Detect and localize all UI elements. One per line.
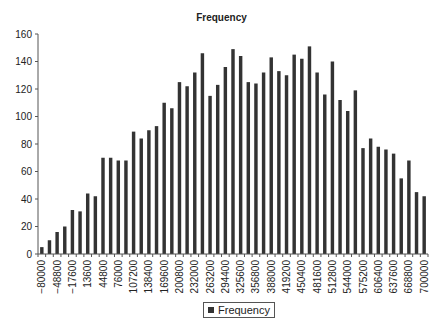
x-tick-label: 388000: [266, 260, 277, 294]
legend-swatch-icon: [208, 307, 214, 313]
bar: [354, 90, 357, 254]
legend: Frequency: [203, 302, 275, 318]
bar: [185, 86, 188, 254]
x-tick-label: 450400: [296, 260, 307, 294]
y-tick-label: 120: [15, 84, 32, 95]
bar: [40, 247, 43, 254]
bar: [94, 196, 97, 254]
bar: [346, 111, 349, 254]
bar: [384, 150, 387, 255]
x-tick-label: 76000: [113, 260, 124, 288]
x-tick-label: −48800: [52, 260, 63, 294]
bar: [239, 56, 242, 254]
bar: [247, 82, 250, 254]
bar: [292, 55, 295, 254]
y-tick-label: 80: [21, 139, 33, 150]
bar: [124, 161, 127, 255]
bar: [155, 126, 158, 254]
y-tick-label: 160: [15, 29, 32, 40]
bar: [422, 196, 425, 254]
bar: [377, 147, 380, 254]
bar: [55, 232, 58, 254]
bar: [231, 49, 234, 254]
bar: [308, 46, 311, 254]
bar: [361, 148, 364, 254]
bar: [71, 210, 74, 254]
x-tick-label: 356800: [250, 260, 261, 294]
x-tick-label: 606400: [373, 260, 384, 294]
x-tick-label: 325600: [235, 260, 246, 294]
bar: [193, 73, 196, 255]
y-tick-label: 20: [21, 221, 33, 232]
legend-label: Frequency: [218, 304, 270, 316]
x-tick-label: 637600: [388, 260, 399, 294]
bar: [117, 161, 120, 255]
x-tick-label: 169600: [159, 260, 170, 294]
y-tick-label: 140: [15, 56, 32, 67]
x-tick-label: 200800: [174, 260, 185, 294]
bar: [170, 108, 173, 254]
bar: [392, 154, 395, 254]
bar: [101, 158, 104, 254]
bar: [224, 67, 227, 254]
bar: [201, 53, 204, 254]
bar: [331, 62, 334, 255]
bar: [86, 194, 89, 255]
x-tick-label: 294400: [220, 260, 231, 294]
x-tick-label: −80000: [36, 260, 47, 294]
x-tick-label: 44800: [98, 260, 109, 288]
bar: [338, 100, 341, 254]
bar: [277, 71, 280, 254]
y-tick-label: 100: [15, 111, 32, 122]
bars: [40, 46, 426, 254]
bar: [162, 103, 165, 254]
bar: [109, 158, 112, 254]
bar-chart: 020406080100120140160 −80000−48800−17600…: [0, 0, 443, 334]
bar: [315, 73, 318, 255]
y-tick-label: 40: [21, 194, 33, 205]
x-tick-label: 512800: [327, 260, 338, 294]
bar: [262, 73, 265, 255]
bar: [48, 240, 51, 254]
x-tick-label: 700000: [419, 260, 430, 294]
x-tick-label: 138400: [143, 260, 154, 294]
bar: [147, 130, 150, 254]
bar: [208, 96, 211, 254]
bar: [78, 211, 81, 254]
x-tick-label: 575200: [358, 260, 369, 294]
bar: [300, 59, 303, 254]
x-axis: −80000−48800−176001360044800760001072001…: [36, 254, 429, 294]
x-tick-label: 107200: [128, 260, 139, 294]
x-tick-label: 263200: [205, 260, 216, 294]
x-tick-label: 544000: [342, 260, 353, 294]
y-tick-label: 0: [26, 249, 32, 260]
bar: [132, 132, 135, 254]
bar: [63, 227, 66, 255]
bar: [140, 139, 143, 255]
bar: [369, 139, 372, 255]
x-tick-label: −17600: [67, 260, 78, 294]
bar: [323, 95, 326, 255]
bar: [216, 85, 219, 254]
x-tick-label: 481600: [312, 260, 323, 294]
x-tick-label: 13600: [82, 260, 93, 288]
bar: [400, 178, 403, 254]
bar: [178, 82, 181, 254]
x-tick-label: 419200: [281, 260, 292, 294]
bar: [415, 192, 418, 254]
bar: [285, 75, 288, 254]
x-tick-label: 232000: [189, 260, 200, 294]
bar: [270, 57, 273, 254]
y-tick-label: 60: [21, 166, 33, 177]
x-tick-label: 668800: [403, 260, 414, 294]
y-axis: 020406080100120140160: [15, 29, 38, 260]
bar: [254, 84, 257, 255]
bar: [407, 161, 410, 255]
